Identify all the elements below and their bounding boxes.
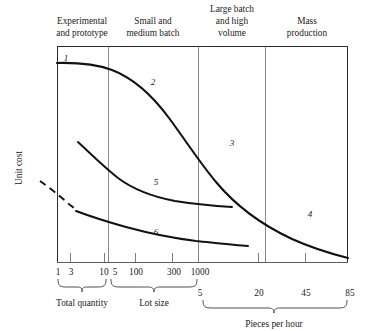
- tick-label-1000: 1000: [191, 267, 210, 277]
- header-col1-line1: Experimental: [57, 16, 107, 26]
- x-axis-tick-labels: 1 3 10 5 100 300 1000 5 20 45 85: [56, 267, 355, 298]
- tick-label-5a: 5: [113, 267, 118, 277]
- tick-label-5b: 5: [198, 288, 203, 298]
- header-col3-line2: and high: [216, 16, 249, 26]
- header-col4-line2: production: [287, 28, 328, 38]
- secondary-curve-6: [76, 211, 248, 246]
- header-col2-line2: medium batch: [127, 28, 180, 38]
- group-label-pieces-per-hour: Pieces per hour: [245, 319, 303, 329]
- main-unit-cost-curve: [57, 63, 348, 258]
- tick-label-100: 100: [129, 267, 143, 277]
- axis-group-braces: Total quantity Lot size Pieces per hour: [56, 279, 347, 329]
- tick-label-3: 3: [69, 267, 74, 277]
- tick-label-85: 85: [345, 288, 355, 298]
- column-headers: Experimental and prototype Small and med…: [56, 4, 327, 38]
- chart-curves: [40, 63, 348, 258]
- chart-svg: Experimental and prototype Small and med…: [0, 0, 368, 331]
- header-col4-line1: Mass: [297, 16, 317, 26]
- group-label-total-quantity: Total quantity: [56, 298, 108, 308]
- header-col3-line3: volume: [218, 28, 246, 38]
- curve-label-3: 3: [229, 138, 235, 148]
- tick-label-1: 1: [56, 267, 61, 277]
- unit-cost-chart-figure: Experimental and prototype Small and med…: [0, 0, 368, 331]
- tick-label-300: 300: [167, 267, 181, 277]
- y-axis-label: Unit cost: [14, 151, 24, 185]
- curve-label-6: 6: [154, 227, 159, 237]
- secondary-curve-6-dashed-extension: [40, 181, 77, 211]
- x-axis-tickmarks: [71, 253, 306, 262]
- curve-label-5: 5: [154, 177, 159, 187]
- plot-frame: [57, 47, 348, 263]
- header-col3-line1: Large batch: [210, 4, 254, 14]
- curve-label-1: 1: [64, 53, 69, 63]
- header-col1-line2: and prototype: [56, 28, 107, 38]
- curve-label-4: 4: [308, 209, 313, 219]
- curve-label-2: 2: [151, 77, 156, 87]
- brace-lot-size: [111, 279, 197, 292]
- header-col2-line1: Small and: [134, 16, 172, 26]
- group-label-lot-size: Lot size: [139, 298, 169, 308]
- region-dividers: [109, 47, 266, 263]
- tick-label-20: 20: [254, 288, 264, 298]
- brace-total-quantity: [58, 279, 106, 292]
- brace-pieces-per-hour: [203, 300, 347, 313]
- tick-label-10: 10: [99, 267, 109, 277]
- tick-label-45: 45: [301, 288, 311, 298]
